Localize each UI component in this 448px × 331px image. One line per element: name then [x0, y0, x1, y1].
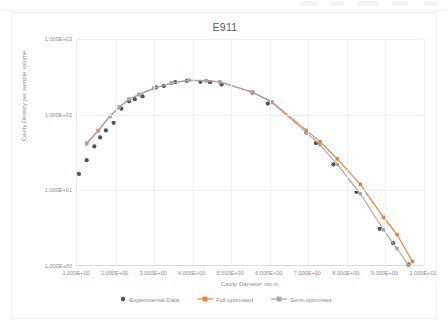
data-marker [140, 94, 144, 98]
legend-label: Full optimised [216, 297, 253, 303]
y-tick-label: 1.000E+03 [16, 36, 72, 42]
legend-item[interactable]: Full optimised [197, 295, 253, 304]
data-marker [218, 80, 221, 83]
data-marker [336, 157, 339, 160]
top-ghost-4 [392, 1, 408, 6]
data-marker [92, 144, 96, 148]
data-marker [77, 172, 81, 176]
series-experimental-data [77, 79, 411, 267]
data-marker [170, 81, 173, 84]
y-tick-label: 1.000E+01 [16, 187, 72, 193]
x-gridline [385, 39, 386, 265]
x-tick-label: 1.000E+01 [397, 270, 448, 276]
y-gridline [77, 115, 423, 116]
x-gridline [116, 39, 117, 265]
x-gridline [193, 39, 194, 265]
legend-label: Experimental Data [130, 297, 179, 303]
x-axis-title: Cavity Dameter niu m [76, 281, 423, 287]
data-marker [336, 163, 339, 166]
data-marker [98, 135, 102, 139]
legend-label: Semi-optimised [290, 297, 331, 303]
screenshot-root: E911 Cavity Density per sample volume 1.… [0, 0, 448, 331]
legend-line-square-icon [197, 295, 213, 304]
top-ghost-1 [300, 1, 318, 6]
series-line [87, 80, 413, 261]
data-marker [331, 162, 335, 166]
y-tick-label: 1.000E+00 [16, 263, 72, 269]
data-marker [395, 247, 398, 250]
data-marker [378, 227, 382, 231]
x-gridline [270, 39, 271, 265]
data-marker [318, 140, 321, 143]
data-marker [127, 98, 130, 101]
chart-legend: Experimental DataFull optimisedSemi-opti… [12, 295, 438, 304]
legend-item[interactable]: Experimental Data [119, 295, 179, 304]
data-marker [359, 183, 362, 186]
plot-area [76, 39, 423, 266]
top-divider [0, 10, 448, 11]
x-gridline [347, 39, 348, 265]
data-marker [318, 143, 321, 146]
x-gridline [308, 39, 309, 265]
data-marker [359, 192, 362, 195]
legend-item[interactable]: Semi-optimised [271, 295, 331, 304]
top-ghost-5 [424, 1, 438, 6]
data-marker [407, 264, 410, 267]
series-full-optimised [85, 79, 414, 264]
chart-title: E911 [12, 21, 438, 33]
plot-svg [77, 39, 424, 266]
x-gridline [231, 39, 232, 265]
data-marker [137, 93, 140, 96]
x-gridline [424, 39, 425, 265]
x-axis-tick-labels: 1.000E+002.000E+003.000E+004.000E+005.00… [76, 270, 423, 280]
series-semi-optimised [85, 79, 410, 267]
data-marker [118, 105, 121, 108]
top-ghost-2 [330, 1, 344, 6]
data-marker [85, 142, 88, 145]
x-gridline [154, 39, 155, 265]
legend-circle-icon [119, 295, 127, 304]
data-marker [97, 129, 100, 132]
data-marker [204, 79, 207, 82]
chart-object[interactable]: E911 Cavity Density per sample volume 1.… [11, 12, 437, 319]
data-marker [411, 260, 414, 263]
y-tick-label: 1.000E+02 [16, 112, 72, 118]
data-marker [104, 128, 108, 132]
data-marker [187, 79, 190, 82]
y-gridline [77, 190, 423, 191]
y-axis-tick-labels: 1.000E+001.000E+011.000E+021.000E+03 [12, 39, 72, 266]
data-marker [85, 158, 89, 162]
legend-line-square-icon [271, 295, 287, 304]
y-gridline [77, 39, 423, 40]
top-ghost-3 [358, 1, 378, 6]
series-line [87, 80, 409, 265]
data-marker [251, 91, 254, 94]
data-marker [395, 233, 398, 236]
